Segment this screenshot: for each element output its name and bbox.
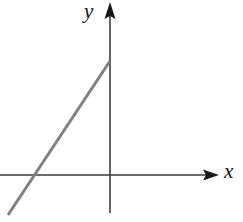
plot-area <box>0 0 243 222</box>
plotted-line <box>8 61 110 215</box>
coordinate-plane-figure: y x <box>0 0 243 222</box>
x-axis-label: x <box>224 161 233 182</box>
y-axis-label: y <box>84 1 93 22</box>
